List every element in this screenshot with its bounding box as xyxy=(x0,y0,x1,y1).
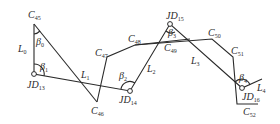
label-jd14: JD14 xyxy=(119,95,137,106)
traverse-diagram: C45 C46 C47 C48 C49 C50 C51 C52 JD13 JD1… xyxy=(0,0,280,124)
label-c45: C45 xyxy=(28,10,41,21)
label-beta1: β1 xyxy=(40,62,48,73)
label-beta4: β4 xyxy=(239,73,247,84)
label-l3: L3 xyxy=(191,56,200,67)
jd15-marker xyxy=(168,22,173,27)
label-l4: L4 xyxy=(257,83,266,94)
label-jd13: JD13 xyxy=(27,80,45,91)
label-l1: L1 xyxy=(81,70,90,81)
jd13-marker xyxy=(32,72,37,77)
label-c48: C48 xyxy=(128,34,141,45)
label-c51: C51 xyxy=(231,46,244,57)
label-beta0: β0 xyxy=(36,37,44,48)
label-beta3: β3 xyxy=(168,28,176,39)
label-l2: L2 xyxy=(147,64,156,75)
label-c47: C47 xyxy=(95,48,108,59)
label-c50: C50 xyxy=(208,28,221,39)
jd14-marker xyxy=(128,89,133,94)
arc-beta0 xyxy=(34,31,40,34)
label-c52: C52 xyxy=(243,107,256,118)
label-jd15: JD15 xyxy=(166,11,184,22)
label-l0: L0 xyxy=(18,44,27,55)
leg-c48-c49 xyxy=(135,39,190,45)
jd16-marker xyxy=(240,86,245,91)
label-c49: C49 xyxy=(164,43,177,54)
label-c46: C46 xyxy=(91,106,104,117)
label-beta2: β2 xyxy=(119,71,127,82)
traverse-line xyxy=(34,24,262,91)
